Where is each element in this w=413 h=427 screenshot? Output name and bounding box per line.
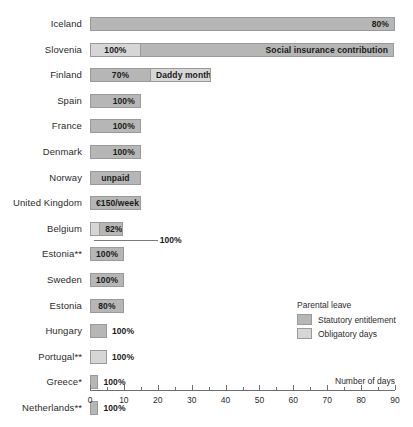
- legend-swatch-obligatory: [297, 328, 312, 339]
- axis-tick-major: [395, 385, 396, 390]
- category-label: Hungary: [0, 324, 82, 338]
- category-label: Estonia**: [0, 247, 82, 261]
- legend-label: Statutory entitlement: [318, 315, 396, 325]
- bar-row[interactable]: 100%: [90, 94, 141, 108]
- category-label: Greece*: [0, 375, 82, 389]
- bar-segment-statutory[interactable]: [90, 375, 98, 389]
- bar-value-label: 100%: [112, 350, 134, 364]
- axis-tick-major: [226, 385, 227, 390]
- bar-value-label: 80%: [91, 301, 123, 311]
- category-label: Portugal**: [0, 350, 82, 364]
- axis-title: Number of days: [250, 376, 395, 386]
- bar-value-label: unpaid: [91, 173, 140, 183]
- legend-item[interactable]: Statutory entitlement: [297, 314, 396, 325]
- bar-row[interactable]: 100%: [90, 119, 141, 133]
- axis-tick-label: 20: [145, 395, 171, 405]
- category-label: Belgium: [0, 222, 82, 236]
- bar-value-label: 100%: [91, 249, 123, 259]
- axis-tick-label: 60: [280, 395, 306, 405]
- axis-tick-label: 10: [111, 395, 137, 405]
- bar-segment-obligatory[interactable]: 100%: [90, 43, 141, 57]
- chart-legend: Parental leaveStatutory entitlementOblig…: [297, 300, 396, 342]
- bar-segment-obligatory[interactable]: [90, 350, 107, 364]
- category-label: Sweden: [0, 273, 82, 287]
- category-label: Denmark: [0, 145, 82, 159]
- bar-value-label: 100%: [91, 147, 140, 157]
- bar-segment-statutory[interactable]: 100%: [90, 273, 124, 287]
- category-label: Norway: [0, 171, 82, 185]
- bar-segment-obligatory[interactable]: Daddy month: [150, 68, 211, 82]
- bar-value-label: 70%: [91, 70, 150, 80]
- bar-value-label: 100%: [91, 96, 140, 106]
- category-label: Netherlands**: [0, 401, 82, 415]
- axis-tick-minor: [310, 387, 311, 390]
- bar-row[interactable]: 100%: [90, 247, 124, 261]
- category-label: United Kingdom: [0, 196, 82, 210]
- bar-row[interactable]: [90, 324, 107, 338]
- legend-title: Parental leave: [297, 300, 396, 310]
- bar-segment-statutory[interactable]: unpaid: [90, 171, 141, 185]
- bar-row[interactable]: 80%: [90, 299, 124, 313]
- category-label: Slovenia: [0, 43, 82, 57]
- axis-tick-minor: [141, 387, 142, 390]
- bar-segment-statutory[interactable]: 70%: [90, 68, 151, 82]
- bar-segment-statutory[interactable]: 80%: [90, 299, 124, 313]
- axis-tick-label: 90: [382, 395, 408, 405]
- bar-segment-statutory[interactable]: 82%: [99, 222, 123, 236]
- legend-item[interactable]: Obligatory days: [297, 328, 396, 339]
- bar-segment-statutory[interactable]: Social insurance contribution: [140, 43, 394, 57]
- bar-row[interactable]: 82%: [90, 222, 124, 236]
- axis-tick-label: 50: [246, 395, 272, 405]
- axis-tick-minor: [344, 387, 345, 390]
- axis-tick-label: 70: [314, 395, 340, 405]
- bar-segment-statutory[interactable]: €150/week: [90, 196, 141, 210]
- axis-tick-minor: [276, 387, 277, 390]
- callout-leader-line: [94, 240, 158, 241]
- bar-row[interactable]: unpaid: [90, 171, 141, 185]
- bar-row[interactable]: 70%Daddy month: [90, 68, 212, 82]
- axis-tick-major: [158, 385, 159, 390]
- bar-value-label: Social insurance contribution: [141, 45, 393, 55]
- legend-swatch-statutory: [297, 314, 312, 325]
- bar-row[interactable]: 100%Social insurance contribution: [90, 43, 395, 57]
- bar-value-label: 80%: [91, 19, 394, 29]
- bar-value-label: 82%: [100, 224, 122, 234]
- bar-value-label: 100%: [91, 121, 140, 131]
- bar-row[interactable]: 100%: [90, 145, 141, 159]
- axis-tick-major: [90, 385, 91, 390]
- axis-tick-minor: [175, 387, 176, 390]
- bar-value-label: 100%: [91, 275, 123, 285]
- axis-tick-label: 30: [179, 395, 205, 405]
- axis-tick-minor: [209, 387, 210, 390]
- bar-segment-statutory[interactable]: [90, 324, 107, 338]
- bar-segment-statutory[interactable]: 100%: [90, 94, 141, 108]
- legend-label: Obligatory days: [318, 329, 377, 339]
- axis-tick-minor: [378, 387, 379, 390]
- category-label: Spain: [0, 94, 82, 108]
- axis-tick-major: [192, 385, 193, 390]
- bar-row[interactable]: 80%: [90, 17, 395, 31]
- axis-tick-label: 80: [348, 395, 374, 405]
- callout-label: 100%: [160, 235, 182, 245]
- bar-row[interactable]: 100%: [90, 273, 124, 287]
- bar-row[interactable]: [90, 350, 107, 364]
- bar-value-label: 100%: [91, 45, 140, 55]
- bar-segment-statutory[interactable]: 100%: [90, 145, 141, 159]
- category-label: Iceland: [0, 17, 82, 31]
- bar-value-label: Daddy month: [151, 70, 210, 80]
- axis-tick-major: [124, 385, 125, 390]
- axis-tick-minor: [243, 387, 244, 390]
- axis-tick-label: 40: [213, 395, 239, 405]
- bar-segment-statutory[interactable]: 80%: [90, 17, 395, 31]
- category-label: Estonia: [0, 299, 82, 313]
- bar-value-label: €150/week: [91, 198, 140, 208]
- bar-value-label: 100%: [112, 324, 134, 338]
- category-label: France: [0, 119, 82, 133]
- bar-segment-statutory[interactable]: 100%: [90, 247, 124, 261]
- axis-line: [90, 390, 395, 391]
- bar-row[interactable]: €150/week: [90, 196, 141, 210]
- bar-row[interactable]: [90, 375, 98, 389]
- bar-segment-statutory[interactable]: 100%: [90, 119, 141, 133]
- parental-leave-chart: IcelandSloveniaFinlandSpainFranceDenmark…: [0, 0, 413, 427]
- axis-tick-minor: [107, 387, 108, 390]
